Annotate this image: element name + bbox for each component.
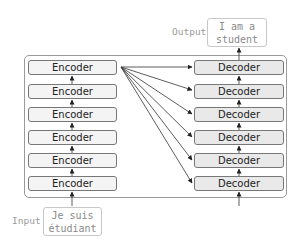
decoder-block-6: Decoder (194, 176, 284, 191)
encoder-block-5: Encoder (28, 153, 117, 168)
input-line-2: étudiant (44, 222, 101, 235)
decoder-block-1: Decoder (194, 60, 284, 75)
encoder-block-4: Encoder (28, 130, 117, 145)
output-line-1: I am a (208, 20, 266, 33)
input-line-1: Je suis (44, 209, 101, 222)
output-text-box: I am a student (207, 18, 267, 47)
decoder-block-4: Decoder (194, 130, 284, 145)
encoder-block-2: Encoder (28, 84, 117, 99)
encoder-block-1: Encoder (28, 60, 117, 75)
output-label: Output (172, 26, 206, 37)
decoder-block-5: Decoder (194, 153, 284, 168)
encoder-block-6: Encoder (28, 176, 117, 191)
decoder-block-2: Decoder (194, 84, 284, 99)
input-text-box: Je suis étudiant (43, 207, 102, 236)
input-label: Input (12, 215, 41, 226)
decoder-block-3: Decoder (194, 107, 284, 122)
output-line-2: student (208, 33, 266, 46)
encoder-block-3: Encoder (28, 107, 117, 122)
